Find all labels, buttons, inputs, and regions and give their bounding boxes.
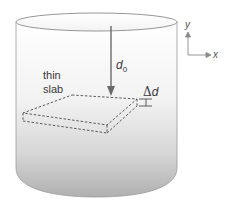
thickness-var: d: [152, 85, 159, 99]
cylinder-top-rim: [16, 13, 177, 31]
container-diagram: [0, 0, 230, 208]
thin-label: thin: [43, 70, 61, 81]
y-axis-label: y: [185, 20, 190, 30]
thickness-label: Δd: [143, 86, 158, 98]
cylinder-body: [16, 22, 177, 197]
delta-symbol: Δ: [143, 85, 152, 99]
coordinate-axes: [186, 32, 212, 58]
slab-label: slab: [43, 84, 63, 95]
depth-label-var: d: [116, 58, 123, 72]
depth-label-subscript: 0: [123, 65, 127, 74]
depth-label: d0: [116, 59, 127, 74]
diagram-canvas: thin slab d0 Δd y x: [0, 0, 230, 208]
x-axis-label: x: [213, 50, 218, 60]
